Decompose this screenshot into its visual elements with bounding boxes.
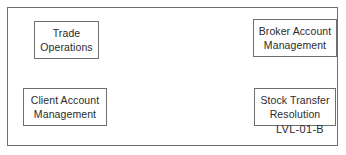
process-box-client-account-management-line-1: Client Account xyxy=(31,93,100,107)
process-box-trade-operations-line-1: Trade xyxy=(53,26,81,40)
process-box-client-account-management[interactable]: Client Account Management xyxy=(23,88,107,126)
diagram-canvas: Trade Operations Broker Account Manageme… xyxy=(0,0,346,155)
process-box-trade-operations-line-2: Operations xyxy=(40,40,92,54)
process-box-trade-operations[interactable]: Trade Operations xyxy=(34,21,99,59)
process-box-stock-transfer-resolution-line-2: Resolution xyxy=(270,107,321,121)
process-box-stock-transfer-resolution[interactable]: Stock Transfer Resolution xyxy=(254,88,336,126)
process-box-stock-transfer-resolution-line-1: Stock Transfer xyxy=(260,93,329,107)
process-box-broker-account-management-line-2: Management xyxy=(264,38,326,52)
process-box-broker-account-management-line-1: Broker Account xyxy=(259,24,332,38)
process-box-broker-account-management[interactable]: Broker Account Management xyxy=(253,19,337,57)
diagram-id-label: LVL-01-B xyxy=(276,123,324,136)
diagram-outer-frame: Trade Operations Broker Account Manageme… xyxy=(7,7,338,146)
process-box-client-account-management-line-2: Management xyxy=(34,107,96,121)
